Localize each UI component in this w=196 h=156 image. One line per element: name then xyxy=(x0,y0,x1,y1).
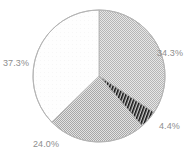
pie-slice-label-37: 37.3% xyxy=(3,58,29,69)
pie-slice-label-34: 34.3% xyxy=(157,48,183,59)
pie-slice-label-24: 24.0% xyxy=(33,139,59,150)
pie-chart: 34.3% 4.4% 24.0% 37.3% xyxy=(0,0,196,156)
pie-slice-label-4: 4.4% xyxy=(159,121,180,132)
pie-chart-canvas xyxy=(0,0,196,156)
pie-slices-group xyxy=(33,10,165,142)
